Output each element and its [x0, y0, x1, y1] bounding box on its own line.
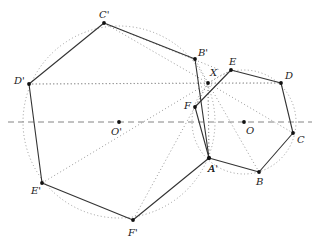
vertex-labels: A'B'C'D'E'F'ABCDEFXO'O — [13, 9, 305, 238]
hexagon-edges — [29, 23, 293, 220]
vertex-points — [27, 21, 295, 222]
point-x — [206, 81, 210, 85]
point-o — [242, 120, 246, 124]
point-d — [279, 81, 283, 85]
label-e: E — [228, 56, 237, 67]
point-f — [193, 105, 197, 109]
label-c-prime: C' — [99, 9, 109, 20]
point-a — [207, 156, 211, 160]
dotted-line-x-to-big-vertex — [42, 83, 208, 183]
point-e — [229, 68, 233, 72]
label-c: C — [297, 134, 305, 145]
point-d-prime — [27, 82, 31, 86]
label-o: O — [246, 125, 254, 136]
label-e-prime: E' — [30, 185, 41, 196]
label-f-prime: F' — [127, 227, 138, 238]
point-c — [291, 131, 295, 135]
point-c-prime — [102, 21, 106, 25]
dotted-line-x-to-big-vertex — [104, 23, 208, 83]
dotted-line-x-to-big-vertex — [29, 83, 208, 84]
point-o-prime — [117, 120, 121, 124]
label-f: F — [183, 100, 192, 111]
geometry-diagram: A'B'C'D'E'F'ABCDEFXO'O — [0, 0, 316, 250]
label-a: A — [207, 163, 215, 174]
label-b-prime: B' — [197, 47, 208, 58]
point-b-prime — [193, 57, 197, 61]
dotted-line-x-to-big-vertex — [133, 83, 208, 220]
label-d-prime: D' — [13, 75, 25, 86]
projection-lines-dotted — [29, 23, 293, 220]
label-b: B — [255, 176, 263, 187]
label-d: D — [284, 70, 293, 81]
point-b — [257, 170, 261, 174]
label-o-prime: O' — [111, 126, 122, 137]
point-f-prime — [131, 218, 135, 222]
label-x: X — [209, 67, 218, 78]
